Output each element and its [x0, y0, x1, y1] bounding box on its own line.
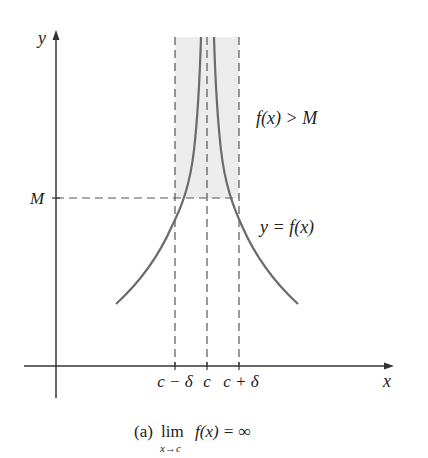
- limit-diagram: y x M c − δ c c + δ f(x) > M y = f(x) (a…: [0, 0, 428, 458]
- x-axis-label: x: [382, 371, 391, 391]
- m-label: M: [29, 189, 45, 208]
- tick-label-c-plus-delta: c + δ: [223, 372, 260, 391]
- caption-expr: f(x) = ∞: [195, 422, 251, 441]
- region-label: f(x) > M: [256, 108, 318, 129]
- caption-prefix: (a): [134, 422, 153, 441]
- tick-label-c: c: [203, 372, 211, 391]
- tick-label-c-minus-delta: c − δ: [157, 372, 194, 391]
- y-axis-arrow-icon: [53, 30, 60, 40]
- caption-subscript: x→c: [159, 442, 181, 454]
- y-axis-label: y: [36, 28, 46, 48]
- figure-caption: (a) lim f(x) = ∞ x→c: [134, 422, 251, 454]
- curve-label: y = f(x): [258, 217, 314, 238]
- caption-lim: lim: [161, 422, 184, 441]
- x-axis-arrow-icon: [384, 363, 394, 370]
